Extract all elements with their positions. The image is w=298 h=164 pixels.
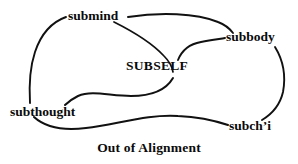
edge-subbody-subchi (262, 47, 284, 120)
node-label-submind: submind (68, 9, 118, 23)
edge-submind-subbody (128, 14, 233, 33)
node-label-subself: SUBSELF (126, 59, 188, 73)
out-of-alignment-diagram: submind subbody SUBSELF subthought subch… (0, 0, 298, 164)
figure-caption: Out of Alignment (0, 140, 298, 156)
node-label-subthought: subthought (10, 105, 75, 119)
edge-subself-subthought (65, 78, 173, 105)
edge-submind-subthought (30, 17, 66, 103)
node-label-subchi: subch’i (229, 119, 271, 133)
edge-subself-subbody (178, 38, 225, 60)
node-label-subbody: subbody (226, 30, 275, 44)
